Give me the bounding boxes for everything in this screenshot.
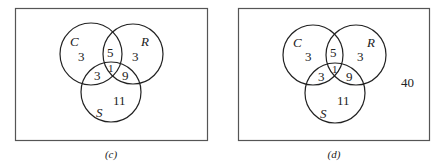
region-outside: 40 xyxy=(401,75,414,90)
region-c-only: 3 xyxy=(305,49,312,64)
set-label-c: C xyxy=(70,34,79,49)
set-label-r: R xyxy=(366,35,375,50)
region-c-r-s: 1 xyxy=(332,63,338,75)
region-c-r: 5 xyxy=(330,45,337,60)
caption-d: (d) xyxy=(328,148,341,161)
venn-diagram-d: C R S 3 3 11 5 3 9 1 40 (d) xyxy=(239,9,430,162)
region-c-s: 3 xyxy=(318,69,325,84)
set-label-s: S xyxy=(96,105,103,120)
region-s-only: 11 xyxy=(113,93,126,108)
region-c-r-s: 1 xyxy=(108,62,114,74)
region-r-only: 3 xyxy=(357,49,364,64)
region-s-only: 11 xyxy=(337,93,350,108)
region-c-only: 3 xyxy=(78,49,85,64)
set-label-s: S xyxy=(320,106,327,121)
caption-c: (c) xyxy=(105,148,118,161)
set-label-r: R xyxy=(140,34,149,49)
region-r-s: 9 xyxy=(346,69,353,84)
region-r-only: 3 xyxy=(132,49,139,64)
venn-diagram-c: C R S 3 3 11 5 3 9 1 (c) xyxy=(16,9,208,162)
venn-figure: C R S 3 3 11 5 3 9 1 (c) C R S 3 3 11 5 … xyxy=(0,0,441,166)
region-c-r: 5 xyxy=(107,45,114,60)
region-r-s: 9 xyxy=(122,68,129,83)
set-label-c: C xyxy=(293,35,302,50)
region-c-s: 3 xyxy=(94,68,101,83)
